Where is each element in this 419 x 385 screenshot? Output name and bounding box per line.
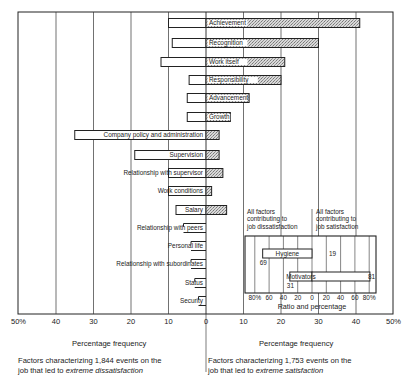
bar-row-relationship-with-supervisor: Relationship with supervisor [123, 169, 222, 178]
bar-row-salary: Salary [176, 206, 227, 215]
x-tick-label: 0 [204, 317, 208, 326]
bar-label: Status [185, 279, 203, 286]
bar-row-responsibility: Responsibility [189, 76, 281, 85]
satisfaction-bar [206, 206, 227, 215]
bar-label: Supervision [170, 151, 204, 159]
inset-left-value: 31 [287, 282, 295, 289]
bar-row-recognition: Recognition [172, 39, 318, 48]
bar-row-work-itself: Work itself [161, 58, 285, 67]
bar-row-relationship-with-peers: Relationship with peers [137, 224, 206, 233]
inset-tick-label: 60 [266, 294, 274, 301]
herzberg-factor-chart: AchievementRecognitionWork itselfRespons… [0, 0, 419, 385]
bar-label: Responsibility [209, 76, 249, 84]
x-tick-label: 40 [352, 317, 360, 326]
dissatisfaction-bar [161, 58, 206, 67]
bar-label: Achievement [209, 19, 246, 26]
inset-bar-label: Motivators [286, 273, 315, 280]
caption-right-line2: job that led to extreme satisfaction [208, 366, 352, 376]
inset-tick-label: 60 [351, 294, 359, 301]
bar-row-company-policy-and-administration: Company policy and administration [75, 131, 219, 140]
caption-left-line2: job that led to extreme dissatisfaction [18, 366, 162, 376]
x-tick-label: 30 [89, 317, 97, 326]
x-axis-label-right: Percentage frequency [259, 339, 333, 349]
caption-left-line1: Factors characterizing 1,844 events on t… [18, 356, 162, 366]
bar-label: Relationship with peers [137, 224, 203, 232]
inset-tick-label: 80% [248, 294, 261, 301]
satisfaction-bar [206, 169, 223, 178]
inset-left-value: 69 [260, 259, 268, 266]
satisfaction-bar [206, 187, 212, 196]
bar-label: Relationship with supervisor [123, 169, 203, 177]
inset-title-right: job satisfaction [315, 223, 359, 231]
bar-row-growth: Growth [187, 113, 230, 122]
x-tick-label: 20 [127, 317, 135, 326]
dissatisfaction-bar [189, 76, 206, 85]
caption-right-line1: Factors characterizing 1,753 events on t… [208, 356, 352, 366]
bar-row-personal-life: Personal life [168, 242, 206, 251]
inset-bar-label: Hygiene [276, 250, 300, 258]
satisfaction-bar [206, 131, 219, 140]
bar-row-advancement: Advancement [187, 94, 249, 103]
bar-label: Recognition [209, 39, 243, 47]
x-tick-label: 10 [239, 317, 247, 326]
inset-tick-label: 80% [363, 294, 376, 301]
bar-row-relationship-with-subordinates: Relationship with subordinates [116, 260, 206, 269]
bar-label: Work itself [209, 58, 239, 65]
inset-x-label: Ratio and percentage [278, 302, 347, 311]
inset-tick-label: 40 [280, 294, 288, 301]
bar-row-achievement: Achievement [169, 19, 360, 28]
x-tick-label: 40 [52, 317, 60, 326]
dissatisfaction-bar [187, 113, 206, 122]
caption-dissatisfaction: Factors characterizing 1,844 events on t… [18, 356, 162, 375]
dissatisfaction-bar [172, 39, 206, 48]
inset-title-right: All factors [316, 208, 344, 215]
dissatisfaction-bar [187, 94, 206, 103]
x-axis-label-left: Percentage frequency [72, 339, 146, 349]
x-tick-label: 50% [11, 317, 26, 326]
x-tick-label: 50% [386, 317, 401, 326]
bar-label: Advancement [209, 94, 248, 101]
inset-ratio-chart: All factorscontributing tojob dissatisfa… [245, 208, 376, 311]
inset-tick-label: 20 [294, 294, 302, 301]
bar-label: Relationship with subordinates [116, 260, 203, 268]
bar-label: Growth [209, 113, 230, 120]
x-axis-ticks: 50%4030201001020304050% [11, 317, 401, 326]
bar-label: Salary [185, 206, 204, 214]
bar-label: Work conditions [158, 187, 203, 194]
x-tick-label: 30 [314, 317, 322, 326]
bar-row-work-conditions: Work conditions [158, 187, 212, 196]
bar-row-security: Security [180, 297, 206, 306]
x-tick-label: 10 [164, 317, 172, 326]
x-tick-label: 20 [277, 317, 285, 326]
inset-tick-label: 20 [323, 294, 331, 301]
satisfaction-bar [206, 151, 219, 160]
inset-tick-label: 0 [310, 294, 314, 301]
bar-label: Personal life [168, 242, 204, 249]
inset-tick-label: 40 [337, 294, 345, 301]
bar-label: Security [180, 297, 204, 305]
bar-label: Company policy and administration [104, 131, 204, 139]
bar-row-status: Status [185, 279, 206, 288]
inset-right-value: 81 [368, 273, 376, 280]
bar-row-supervision: Supervision [135, 151, 219, 160]
dissatisfaction-bar [169, 19, 207, 28]
inset-title-left: job dissatisfaction [246, 223, 298, 231]
caption-satisfaction: Factors characterizing 1,753 events on t… [208, 356, 352, 375]
inset-title-left: All factors [247, 208, 275, 215]
inset-right-value: 19 [329, 250, 337, 257]
